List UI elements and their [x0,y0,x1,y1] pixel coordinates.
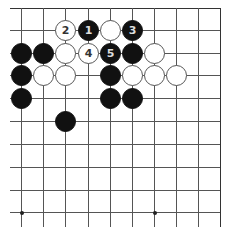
white-stone [144,65,165,86]
grid-line-vertical [43,8,44,227]
move-number: 5 [107,47,115,60]
white-stone-move-4: 4 [78,43,99,64]
black-stone [122,88,143,109]
white-stone [55,65,76,86]
black-stone [33,43,54,64]
white-stone [33,65,54,86]
white-stone [55,43,76,64]
grid-line-horizontal [10,212,221,213]
move-number: 3 [129,24,137,37]
black-stone [55,111,76,132]
grid-line-vertical [154,8,155,227]
black-stone-move-5: 5 [100,43,121,64]
grid-line-vertical [198,8,199,227]
white-stone [166,65,187,86]
star-point [20,211,24,215]
grid-line-horizontal [10,167,221,168]
board-top-edge [10,8,221,9]
go-board: 21345 [0,0,225,227]
black-stone [100,88,121,109]
board-right-edge [220,8,221,227]
black-stone [11,88,32,109]
white-stone [122,65,143,86]
black-stone [122,43,143,64]
white-stone-move-2: 2 [55,20,76,41]
grid-line-horizontal [10,144,221,145]
move-number: 2 [62,24,70,37]
grid-line-vertical [21,8,22,227]
move-number: 1 [85,24,93,37]
star-point [153,211,157,215]
white-stone [100,20,121,41]
black-stone-move-3: 3 [122,20,143,41]
black-stone-move-1: 1 [78,20,99,41]
white-stone [144,43,165,64]
black-stone [11,43,32,64]
move-number: 4 [85,47,93,60]
grid-line-horizontal [10,121,221,122]
black-stone [100,65,121,86]
black-stone [11,65,32,86]
grid-line-horizontal [10,190,221,191]
grid-line-vertical [176,8,177,227]
